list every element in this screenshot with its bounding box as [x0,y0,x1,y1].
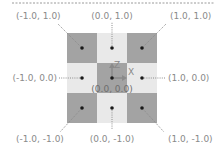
point-w [80,76,84,80]
grid-coordinate-diagram: Z X (-1.0, 1.0) (0.0, 1.0) (1.0, 1.0) (-… [0,0,218,154]
label-n: (0.0, 1.0) [91,11,132,21]
label-ne: (1.0, 1.0) [170,11,211,21]
point-nw [80,46,84,50]
point-c [110,76,114,80]
point-n [110,46,114,50]
point-se [140,106,144,110]
x-axis-label: X [128,67,134,77]
point-ne [140,46,144,50]
label-nw: (-1.0, 1.0) [16,11,61,21]
label-s: (0.0, -1.0) [90,134,135,144]
label-e: (1.0, 0.0) [168,73,209,83]
z-axis-label: Z [114,60,120,70]
label-w: (-1.0, 0.0) [12,73,57,83]
point-sw [80,106,84,110]
label-se: (1.0, -1.0) [168,134,213,144]
point-s [110,106,114,110]
point-e [140,76,144,80]
label-c: (0.0, 0.0) [91,84,132,94]
label-sw: (-1.0, -1.0) [16,134,64,144]
